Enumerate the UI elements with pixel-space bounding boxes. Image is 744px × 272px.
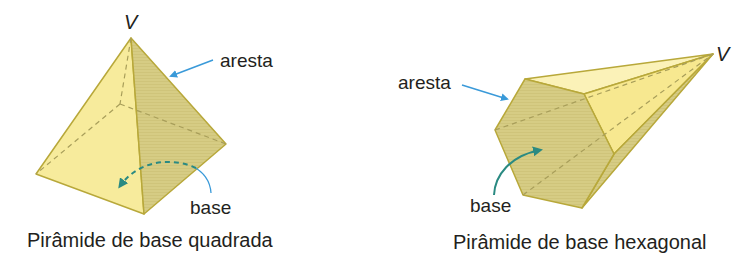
edge-label: aresta <box>398 73 451 92</box>
edge-arrow-icon <box>462 85 507 99</box>
front-right-face <box>131 38 226 214</box>
figure-caption: Pirâmide de base hexagonal <box>453 232 707 252</box>
hexagonal-pyramid <box>462 54 713 208</box>
vertex-label: V <box>124 12 137 32</box>
edge-arrow-icon <box>171 60 213 76</box>
vertex-label: V <box>716 44 729 64</box>
base-label: base <box>190 198 231 217</box>
edge-label: aresta <box>220 51 273 70</box>
square-pyramid <box>36 38 226 214</box>
front-left-face <box>36 38 144 214</box>
pyramids-figure: V aresta base Pirâmide de base quadrada … <box>0 0 744 272</box>
figure-caption: Pirâmide de base quadrada <box>27 230 273 250</box>
base-label: base <box>470 196 511 215</box>
